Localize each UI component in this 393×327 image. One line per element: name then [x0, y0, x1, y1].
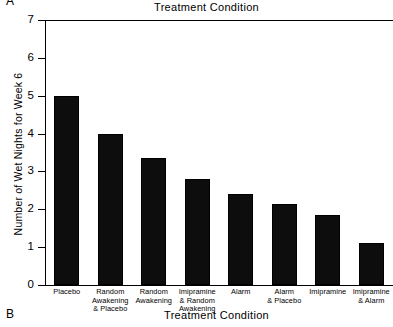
bar-6 [272, 204, 297, 285]
y-tick-label-5: 5 [18, 90, 34, 101]
y-tick-label-1: 1 [18, 241, 34, 252]
y-tick-label-7: 7 [18, 14, 34, 25]
x-tick-label-line: & Placebo [85, 305, 137, 314]
bars-layer [45, 20, 393, 285]
y-tick-7 [38, 20, 45, 21]
y-tick-label-3: 3 [18, 165, 34, 176]
bar-8 [359, 243, 384, 285]
bar-4 [185, 179, 210, 285]
y-tick-4 [38, 134, 45, 135]
x-axis-tick-labels: PlaceboRandomAwakening& PlaceboRandomAwa… [45, 288, 393, 324]
bar-2 [98, 134, 123, 285]
y-tick-label-2: 2 [18, 203, 34, 214]
y-tick-label-6: 6 [18, 52, 34, 63]
x-tick-label-line: & Alarm [346, 297, 393, 306]
y-tick-1 [38, 247, 45, 248]
bar-1 [54, 96, 79, 285]
y-tick-2 [38, 209, 45, 210]
x-tick-label-line: & Placebo [259, 297, 311, 306]
y-tick-3 [38, 171, 45, 172]
x-tick-label-line: Awakening [172, 305, 224, 314]
bar-7 [315, 215, 340, 285]
y-tick-5 [38, 96, 45, 97]
y-tick-label-4: 4 [18, 128, 34, 139]
axis-bottom-spine [45, 285, 393, 286]
x-tick-label-8: Imipramine& Alarm [346, 288, 393, 305]
y-tick-label-0: 0 [18, 279, 34, 290]
y-tick-6 [38, 58, 45, 59]
y-tick-0 [38, 285, 45, 286]
bar-5 [228, 194, 253, 285]
bar-3 [141, 158, 166, 285]
chart-title: Treatment Condition [0, 1, 393, 14]
